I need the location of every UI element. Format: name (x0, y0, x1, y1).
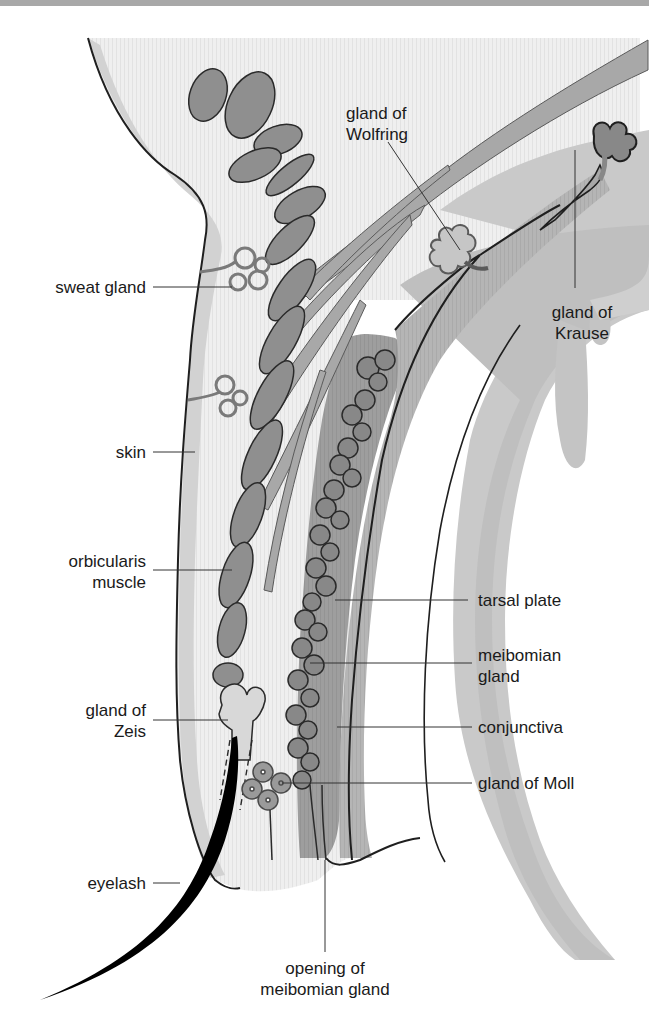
label-line: orbicularis (0, 551, 146, 572)
label-gland-of-krause: gland of Krause (542, 302, 622, 344)
label-line: gland of (346, 103, 408, 124)
label-line: Krause (542, 323, 622, 344)
label-line: gland of (0, 700, 146, 721)
label-gland-of-moll: gland of Moll (478, 773, 574, 794)
label-gland-of-zeis: gland of Zeis (0, 700, 146, 742)
label-line: muscle (0, 572, 146, 593)
eyelid-cross-section-diagram (0, 0, 649, 1024)
label-skin: skin (0, 442, 146, 463)
label-line: Zeis (0, 721, 146, 742)
label-sweat-gland: sweat gland (0, 277, 146, 298)
label-line: gland (478, 666, 561, 687)
label-line: Wolfring (346, 124, 408, 145)
label-conjunctiva: conjunctiva (478, 717, 563, 738)
label-opening-of-meibomian-gland: opening of meibomian gland (245, 958, 405, 1000)
label-orbicularis-muscle: orbicularis muscle (0, 551, 146, 593)
label-line: meibomian gland (245, 979, 405, 1000)
label-line: opening of (245, 958, 405, 979)
label-gland-of-wolfring: gland of Wolfring (346, 103, 408, 145)
label-meibomian-gland: meibomian gland (478, 645, 561, 687)
label-eyelash: eyelash (0, 873, 146, 894)
label-line: gland of (542, 302, 622, 323)
label-tarsal-plate: tarsal plate (478, 590, 561, 611)
label-line: meibomian (478, 645, 561, 666)
